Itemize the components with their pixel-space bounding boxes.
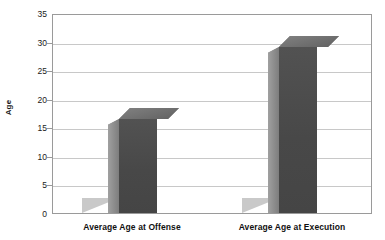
bar[interactable]: [279, 47, 317, 213]
y-axis-tick-label: 30: [20, 38, 47, 47]
gridline: [53, 158, 371, 159]
bar-chart: Age 35302520151050 Average Age at Offens…: [0, 0, 385, 240]
y-axis-title-label: Age: [5, 99, 14, 115]
bar-top-face: [119, 108, 179, 119]
gridline: [53, 101, 371, 102]
y-axis-tick-labels: 35302520151050: [20, 0, 47, 240]
y-axis-tick-mark: [47, 157, 52, 158]
y-axis-tick-label: 35: [20, 10, 47, 19]
y-axis-tick-label: 10: [20, 153, 47, 162]
x-axis-category-labels: Average Age at OffenseAverage Age at Exe…: [52, 222, 372, 240]
bar[interactable]: [119, 119, 157, 213]
gridline: [53, 186, 371, 187]
y-axis-tick-label: 15: [20, 124, 47, 133]
x-axis-category-label: Average Age at Offense: [52, 222, 212, 232]
bar-top-face: [279, 36, 339, 47]
y-axis-tick-mark: [47, 128, 52, 129]
bar-side-face: [268, 47, 279, 214]
bar-front-face: [279, 47, 317, 213]
gridline: [53, 72, 371, 73]
y-axis-tick-mark: [47, 71, 52, 72]
x-axis-category-label: Average Age at Execution: [212, 222, 372, 232]
plot-area: [52, 14, 372, 214]
y-axis-tick-label: 20: [20, 95, 47, 104]
bar-side-face: [108, 119, 119, 214]
bar-front-face: [119, 119, 157, 213]
y-axis-tick-mark: [47, 43, 52, 44]
y-axis-tick-label: 0: [20, 210, 47, 219]
gridline: [53, 129, 371, 130]
y-axis-tick-label: 5: [20, 181, 47, 190]
y-axis-tick-label: 25: [20, 67, 47, 76]
y-axis-tick-mark: [47, 185, 52, 186]
y-axis-tick-mark: [47, 100, 52, 101]
y-axis-title: Age: [0, 0, 18, 214]
